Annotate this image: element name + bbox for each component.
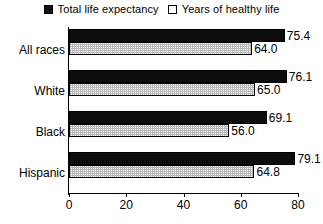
bar-years-of-healthy-life-black: 56.0 bbox=[69, 124, 229, 137]
bar-value-healthy-hispanic: 64.8 bbox=[256, 165, 279, 178]
x-tick-60 bbox=[241, 193, 242, 197]
x-tick-label-20: 20 bbox=[120, 199, 133, 212]
x-tick-40 bbox=[184, 193, 185, 197]
bar-chart: Total life expectancy Years of healthy l… bbox=[0, 0, 323, 224]
legend-swatch-total-life-expectancy bbox=[44, 5, 53, 14]
bar-group-white: White 76.1 65.0 bbox=[69, 70, 298, 111]
bar-value-healthy-white: 65.0 bbox=[257, 83, 280, 96]
category-label-white: White bbox=[34, 84, 65, 97]
x-tick-label-0: 0 bbox=[66, 199, 73, 212]
legend-label-total-life-expectancy: Total life expectancy bbox=[58, 4, 159, 15]
chart-legend: Total life expectancy Years of healthy l… bbox=[0, 1, 323, 17]
bar-years-of-healthy-life-hispanic: 64.8 bbox=[69, 165, 254, 178]
x-tick-label-80: 80 bbox=[291, 199, 304, 212]
bar-years-of-healthy-life-white: 65.0 bbox=[69, 83, 255, 96]
category-label-all-races: All races bbox=[19, 43, 65, 56]
plot-area: All races 75.4 64.0 White 76.1 65.0 Blac… bbox=[69, 29, 298, 193]
bar-years-of-healthy-life-all-races: 64.0 bbox=[69, 42, 252, 55]
legend-swatch-years-of-healthy-life bbox=[168, 5, 177, 14]
x-tick-80 bbox=[298, 193, 299, 197]
category-label-black: Black bbox=[36, 125, 65, 138]
x-tick-20 bbox=[126, 193, 127, 197]
bar-value-healthy-all-races: 64.0 bbox=[254, 42, 277, 55]
bar-value-total-all-races: 75.4 bbox=[287, 29, 310, 42]
x-tick-0 bbox=[69, 193, 70, 197]
category-label-hispanic: Hispanic bbox=[19, 166, 65, 179]
bar-total-life-expectancy-all-races: 75.4 bbox=[69, 29, 285, 42]
bar-group-black: Black 69.1 56.0 bbox=[69, 111, 298, 152]
x-tick-label-40: 40 bbox=[177, 199, 190, 212]
bar-value-healthy-black: 56.0 bbox=[231, 124, 254, 137]
bar-value-total-hispanic: 79.1 bbox=[297, 152, 320, 165]
bar-group-all-races: All races 75.4 64.0 bbox=[69, 29, 298, 70]
x-tick-label-60: 60 bbox=[234, 199, 247, 212]
legend-label-years-of-healthy-life: Years of healthy life bbox=[182, 4, 280, 15]
bar-value-total-white: 76.1 bbox=[289, 70, 312, 83]
legend-entry-total-life-expectancy: Total life expectancy bbox=[44, 4, 159, 15]
bar-total-life-expectancy-white: 76.1 bbox=[69, 70, 287, 83]
legend-entry-years-of-healthy-life: Years of healthy life bbox=[168, 4, 280, 15]
bar-value-total-black: 69.1 bbox=[269, 111, 292, 124]
bar-group-hispanic: Hispanic 79.1 64.8 bbox=[69, 152, 298, 193]
